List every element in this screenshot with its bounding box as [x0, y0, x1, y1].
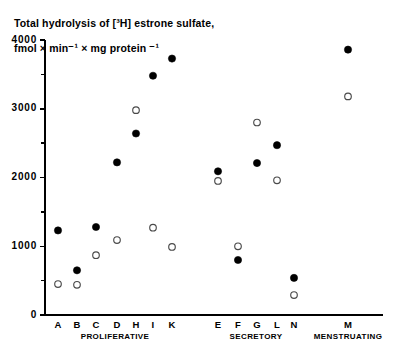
- x-axis-tick-label-h: H: [132, 319, 139, 330]
- data-points-group: [54, 46, 351, 298]
- y-axis-tick-label: 0: [31, 309, 37, 320]
- data-point-open-circle: [235, 243, 242, 250]
- y-axis-tick-label: 2000: [12, 171, 37, 182]
- axes-group: [45, 40, 383, 315]
- data-point-filled-circle: [54, 227, 61, 234]
- scatter-plot-svg: 01000200030004000 ABCDHIKEFGLNM PROLIFER…: [0, 0, 393, 343]
- x-axis-group-label: SECRETORY: [230, 332, 283, 341]
- y-axis-tick-labels: 01000200030004000: [12, 34, 37, 320]
- x-axis-tick-label-l: L: [274, 319, 280, 330]
- data-point-open-circle: [345, 93, 352, 100]
- x-axis-tick-label-f: F: [235, 319, 241, 330]
- data-point-filled-circle: [234, 256, 241, 263]
- x-axis-tick-label-d: D: [113, 319, 120, 330]
- x-axis-tick-label-a: A: [54, 319, 61, 330]
- x-axis-tick-label-i: I: [152, 319, 155, 330]
- x-axis-group-label: MENSTRUATING: [314, 332, 383, 341]
- x-axis-group-labels: PROLIFERATIVESECRETORYMENSTRUATING: [81, 332, 383, 341]
- x-axis-tick-label-c: C: [92, 319, 99, 330]
- data-point-filled-circle: [92, 223, 99, 230]
- data-point-filled-circle: [73, 267, 80, 274]
- data-point-filled-circle: [344, 46, 351, 53]
- data-point-open-circle: [291, 292, 298, 299]
- data-point-filled-circle: [214, 168, 221, 175]
- figure-container: Total hydrolysis of [³H] estrone sulfate…: [0, 0, 393, 343]
- data-point-open-circle: [254, 119, 261, 126]
- data-point-open-circle: [93, 252, 100, 259]
- y-axis-tick-label: 1000: [12, 240, 37, 251]
- data-point-filled-circle: [113, 159, 120, 166]
- data-point-open-circle: [133, 107, 140, 114]
- data-point-filled-circle: [168, 55, 175, 62]
- data-point-filled-circle: [290, 274, 297, 281]
- x-axis-tick-label-e: E: [215, 319, 222, 330]
- x-axis-tick-label-g: G: [253, 319, 261, 330]
- x-axis-tick-labels: ABCDHIKEFGLNM: [54, 319, 352, 330]
- x-axis-group-label: PROLIFERATIVE: [81, 332, 150, 341]
- data-point-open-circle: [114, 237, 121, 244]
- data-point-open-circle: [169, 244, 176, 251]
- data-point-filled-circle: [132, 130, 139, 137]
- x-axis-tick-label-m: M: [344, 319, 352, 330]
- x-axis-tick-label-k: K: [168, 319, 175, 330]
- data-point-open-circle: [55, 281, 62, 288]
- data-point-open-circle: [215, 178, 222, 185]
- x-axis-tick-label-n: N: [290, 319, 297, 330]
- data-point-filled-circle: [149, 72, 156, 79]
- x-axis-tick-label-b: B: [73, 319, 80, 330]
- y-axis-tick-label: 4000: [12, 34, 37, 45]
- data-point-open-circle: [74, 281, 81, 288]
- data-point-filled-circle: [273, 142, 280, 149]
- plot-area: 01000200030004000 ABCDHIKEFGLNM PROLIFER…: [0, 0, 393, 343]
- data-point-open-circle: [150, 224, 157, 231]
- data-point-open-circle: [274, 177, 281, 184]
- y-axis-tick-label: 3000: [12, 102, 37, 113]
- data-point-filled-circle: [253, 159, 260, 166]
